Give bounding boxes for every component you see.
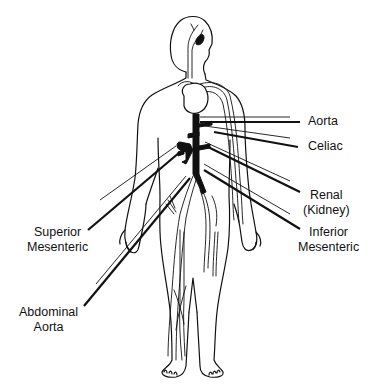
body-outline (120, 17, 261, 378)
label-abdominal-aorta-line-1: Abdominal (19, 305, 78, 320)
label-inferior-mesenteric-line-2: Mesenteric (298, 240, 359, 255)
label-celiac-line-1: Celiac (308, 139, 343, 154)
label-superior-mesenteric-line-1: Superior (27, 225, 88, 240)
label-superior-mesenteric: Superior Mesenteric (27, 225, 88, 254)
label-aorta: Aorta (308, 114, 338, 129)
label-renal-line-2: (Kidney) (303, 203, 350, 218)
label-abdominal-aorta: Abdominal Aorta (19, 305, 78, 334)
label-superior-mesenteric-line-2: Mesenteric (27, 240, 88, 255)
label-abdominal-aorta-line-2: Aorta (19, 320, 78, 335)
label-aorta-line-1: Aorta (308, 114, 338, 129)
label-renal-line-1: Renal (303, 188, 350, 203)
leader-lines (84, 117, 300, 306)
label-celiac: Celiac (308, 139, 343, 154)
label-renal: Renal (Kidney) (303, 188, 350, 217)
label-inferior-mesenteric: Inferior Mesenteric (298, 225, 359, 254)
label-inferior-mesenteric-line-1: Inferior (298, 225, 359, 240)
